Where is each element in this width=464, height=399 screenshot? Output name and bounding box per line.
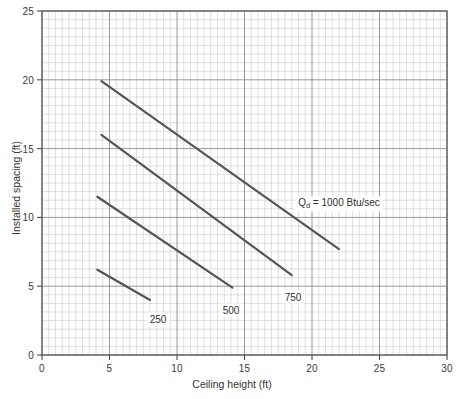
curve-label-750: 750 bbox=[282, 291, 305, 304]
qd-symbol: Q bbox=[298, 197, 306, 208]
curve-label-250: 250 bbox=[147, 313, 170, 326]
x-tick-label: 20 bbox=[306, 363, 318, 374]
x-tick-label: 5 bbox=[107, 363, 113, 374]
curve-label-1000: Qd = 1000 Btu/sec bbox=[295, 196, 383, 211]
x-tick-label: 0 bbox=[39, 363, 45, 374]
chart-plot-area bbox=[0, 0, 464, 399]
curve-500 bbox=[97, 197, 232, 288]
qd-value: = 1000 Btu/sec bbox=[310, 197, 380, 208]
x-tick-label: 25 bbox=[374, 363, 386, 374]
x-tick-label: 10 bbox=[171, 363, 183, 374]
x-axis-title: Ceiling height (ft) bbox=[0, 378, 464, 390]
x-tick-label: 15 bbox=[239, 363, 251, 374]
y-tick-label: 20 bbox=[12, 74, 34, 85]
curve-250 bbox=[97, 270, 150, 300]
y-tick-label: 25 bbox=[12, 6, 34, 17]
y-tick-label: 5 bbox=[12, 281, 34, 292]
chart-container: 0510152025300510152025 Ceiling height (f… bbox=[0, 0, 464, 399]
y-tick-label: 0 bbox=[12, 350, 34, 361]
x-tick-label: 30 bbox=[441, 363, 453, 374]
curve-label-500: 500 bbox=[220, 303, 243, 316]
y-axis-title: Installed spacing (ft) bbox=[10, 128, 22, 248]
